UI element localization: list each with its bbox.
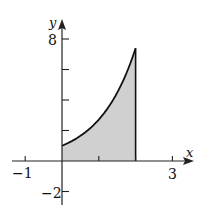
x-ticks <box>25 156 172 161</box>
shaded-region <box>62 48 136 161</box>
y-axis-label: y <box>48 15 57 30</box>
x-axis-label: x <box>186 145 194 160</box>
x-tick-label-neg1: −1 <box>12 165 33 181</box>
y-ticks <box>62 39 69 192</box>
y-tick-label-8: 8 <box>48 32 57 48</box>
plot-area: y x 8 −2 −1 3 <box>0 0 201 211</box>
y-tick-label-neg2: −2 <box>41 185 62 201</box>
x-tick-label-3: 3 <box>168 166 177 182</box>
